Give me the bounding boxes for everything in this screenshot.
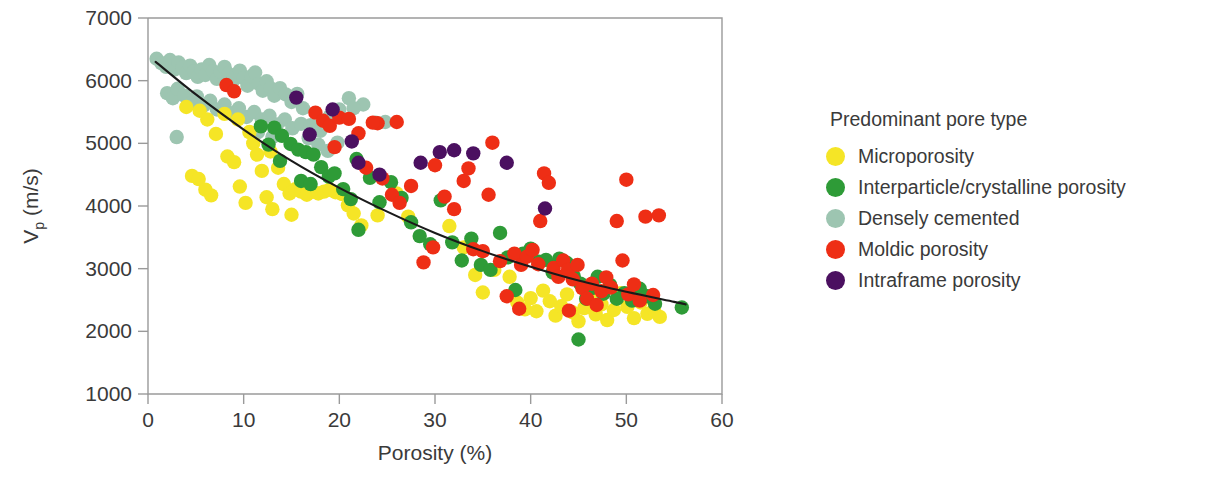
data-point	[392, 196, 406, 210]
data-point	[303, 177, 317, 191]
data-point	[500, 289, 514, 303]
x-tick-label-10: 10	[232, 408, 255, 431]
y-tick-label-4000: 4000	[85, 194, 132, 217]
data-point	[250, 147, 264, 161]
data-point	[351, 156, 365, 170]
legend-swatch-icon	[826, 147, 845, 166]
data-point	[254, 119, 268, 133]
data-point	[500, 156, 514, 170]
data-point	[447, 202, 461, 216]
scatter-plot-figure: 1000200030004000500060007000010203040506…	[0, 0, 1208, 480]
data-point	[327, 166, 341, 180]
data-point	[627, 277, 641, 291]
data-point	[571, 332, 585, 346]
legend-swatch-icon	[826, 240, 845, 259]
data-point	[538, 201, 552, 215]
data-point	[345, 134, 359, 148]
x-tick-label-20: 20	[328, 408, 351, 431]
data-point	[512, 302, 526, 316]
x-tick-label-50: 50	[615, 408, 638, 431]
data-point	[493, 226, 507, 240]
data-point	[325, 102, 339, 116]
data-point	[533, 214, 547, 228]
legend-swatch-icon	[826, 271, 845, 290]
data-point	[562, 303, 576, 317]
data-point	[366, 115, 380, 129]
data-point	[227, 84, 241, 98]
data-point	[372, 167, 386, 181]
data-point	[209, 127, 223, 141]
y-axis-title: Vp (m/s)	[19, 168, 47, 243]
data-point	[179, 100, 193, 114]
y-tick-label-5000: 5000	[85, 131, 132, 154]
legend: Predominant pore type MicroporosityInter…	[826, 108, 1198, 297]
data-point	[170, 130, 184, 144]
data-point	[485, 136, 499, 150]
data-point	[481, 188, 495, 202]
data-point	[615, 253, 629, 267]
data-point	[646, 288, 660, 302]
y-tick-label-6000: 6000	[85, 69, 132, 92]
data-point	[342, 112, 356, 126]
y-axis-title-text: Vp (m/s)	[19, 168, 47, 243]
data-point	[442, 219, 456, 233]
legend-swatch-icon	[826, 209, 845, 228]
legend-item-densely-cemented[interactable]: Densely cemented	[826, 204, 1198, 233]
data-point	[619, 172, 633, 186]
data-point	[404, 179, 418, 193]
data-point	[476, 285, 490, 299]
data-point	[529, 304, 543, 318]
legend-item-label: Intraframe porosity	[858, 271, 1021, 291]
data-point	[433, 145, 447, 159]
data-point	[302, 127, 316, 141]
data-point	[351, 223, 365, 237]
data-point	[428, 158, 442, 172]
data-point	[457, 174, 471, 188]
data-point	[204, 188, 218, 202]
y-tick-label-1000: 1000	[85, 382, 132, 405]
legend-item-intraframe-porosity[interactable]: Intraframe porosity	[826, 266, 1198, 295]
y-tick-label-2000: 2000	[85, 319, 132, 342]
x-tick-label-0: 0	[142, 408, 154, 431]
data-point	[289, 90, 303, 104]
legend-items: MicroporosityInterparticle/crystalline p…	[826, 142, 1198, 295]
y-axis-title-sub: p	[31, 222, 47, 230]
legend-title: Predominant pore type	[830, 108, 1198, 131]
data-point	[653, 310, 667, 324]
data-point	[571, 314, 585, 328]
data-point	[542, 176, 556, 190]
legend-item-label: Densely cemented	[858, 209, 1020, 229]
data-point	[255, 164, 269, 178]
legend-item-label: Interparticle/crystalline porosity	[858, 178, 1126, 198]
legend-item-label: Microporosity	[858, 147, 974, 167]
legend-item-interparticle-crystalline-porosity[interactable]: Interparticle/crystalline porosity	[826, 173, 1198, 202]
data-point	[233, 179, 247, 193]
data-point	[413, 156, 427, 170]
y-axis-title-unit: (m/s)	[19, 168, 42, 222]
data-point	[523, 291, 537, 305]
x-tick-label-30: 30	[423, 408, 446, 431]
data-point	[227, 155, 241, 169]
data-point	[416, 255, 430, 269]
data-point	[346, 206, 360, 220]
x-tick-label-40: 40	[519, 408, 542, 431]
data-point	[502, 270, 516, 284]
data-point	[447, 143, 461, 157]
legend-swatch-icon	[826, 178, 845, 197]
data-point	[638, 209, 652, 223]
y-tick-label-3000: 3000	[85, 257, 132, 280]
data-point	[570, 258, 584, 272]
data-point	[284, 208, 298, 222]
legend-item-moldic-porosity[interactable]: Moldic porosity	[826, 235, 1198, 264]
x-axis-title: Porosity (%)	[378, 441, 492, 464]
data-point	[238, 196, 252, 210]
data-point	[627, 311, 641, 325]
data-point	[560, 287, 574, 301]
legend-item-label: Moldic porosity	[858, 240, 988, 260]
data-point	[455, 253, 469, 267]
legend-item-microporosity[interactable]: Microporosity	[826, 142, 1198, 171]
data-point	[200, 112, 214, 126]
data-point	[390, 115, 404, 129]
data-point	[306, 147, 320, 161]
data-point	[327, 140, 341, 154]
